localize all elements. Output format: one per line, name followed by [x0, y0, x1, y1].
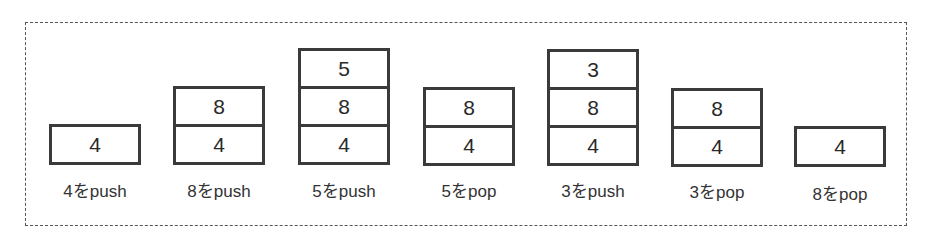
stack: 8 4	[173, 86, 265, 165]
step-label: 3をpop	[651, 178, 783, 203]
stack-cell: 4	[550, 125, 636, 163]
step-label: 5をpop	[403, 177, 535, 202]
step-label: 3をpush	[527, 177, 659, 202]
stack: 4	[794, 126, 886, 167]
stack-cell: 8	[176, 89, 262, 124]
stack-cell: 4	[52, 127, 138, 162]
step-label: 4をpush	[29, 177, 161, 202]
stack: 8 4	[423, 87, 515, 166]
stack-cell: 3	[550, 52, 636, 87]
stack: 8 4	[671, 88, 763, 167]
step-label: 8をpop	[774, 180, 906, 205]
stack: 3 8 4	[547, 49, 639, 166]
step-label: 8をpush	[153, 177, 285, 202]
step-label: 5をpush	[278, 177, 410, 202]
stack-cell: 8	[550, 87, 636, 125]
stack-cell: 4	[674, 126, 760, 164]
stack-cell: 8	[301, 86, 387, 124]
stack: 5 8 4	[298, 48, 390, 165]
stack-cell: 4	[301, 124, 387, 162]
stack-cell: 8	[674, 91, 760, 126]
stack: 4	[49, 124, 141, 165]
stack-cell: 8	[426, 90, 512, 125]
stack-cell: 4	[797, 129, 883, 164]
stack-cell: 4	[426, 125, 512, 163]
stack-cell: 5	[301, 51, 387, 86]
stack-cell: 4	[176, 124, 262, 162]
